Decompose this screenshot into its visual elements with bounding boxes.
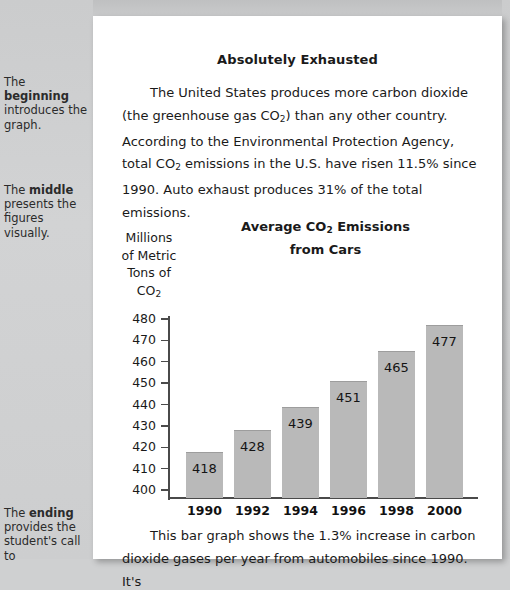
bar-value-2000: 477 (426, 334, 463, 349)
margin-note-middle: The middle presents the figures visually… (4, 183, 92, 240)
y-tick-410 (161, 468, 169, 469)
margin-note-beginning-pre: The (4, 75, 25, 89)
document-sheet: Absolutely Exhausted The United States p… (93, 16, 502, 559)
subscript-2: 2 (326, 225, 332, 235)
bar-value-1994: 439 (282, 416, 319, 431)
x-axis-label-2000: 2000 (421, 503, 469, 518)
margin-note-ending: The ending provides the student's call t… (4, 506, 92, 563)
y-tick-460 (161, 361, 169, 362)
subscript-2: 2 (280, 114, 286, 124)
margin-note-beginning: The beginning introduces the graph. (4, 75, 92, 132)
y-tick-440 (161, 404, 169, 405)
bar-value-1990: 418 (186, 461, 223, 476)
bar-2000 (426, 325, 463, 498)
chart-title: Average CO2 Emissionsfrom Cars (203, 217, 448, 259)
x-axis-label-1992: 1992 (229, 503, 277, 518)
margin-note-middle-pre: The (4, 183, 29, 197)
bar-value-1996: 451 (330, 390, 367, 405)
y-tick-450 (161, 382, 169, 383)
x-axis-label-1994: 1994 (277, 503, 325, 518)
margin-note-beginning-keyword: beginning (4, 89, 69, 103)
y-tick-430 (161, 425, 169, 426)
margin-note-ending-pre: The (4, 506, 29, 520)
y-tick-label-480: 480 (124, 313, 156, 325)
margin-note-middle-keyword: middle (29, 183, 73, 197)
y-tick-label-470: 470 (124, 334, 156, 346)
y-tick-label-400: 400 (124, 484, 156, 496)
bar-value-1998: 465 (378, 360, 415, 375)
x-axis-label-1998: 1998 (373, 503, 421, 518)
x-axis-label-1996: 1996 (325, 503, 373, 518)
y-tick-label-430: 430 (124, 420, 156, 432)
margin-note-ending-post: provides the student's call to (4, 520, 81, 562)
x-axis-label-1990: 1990 (181, 503, 229, 518)
closing-paragraph: This bar graph shows the 1.3% increase i… (122, 524, 482, 590)
y-tick-label-410: 410 (124, 463, 156, 475)
margin-annotations: The beginning introduces the graph. The … (0, 0, 93, 559)
sheet-top-shadow (93, 0, 502, 16)
chart-plot-area: 400410420430440450460470480 418428439451… (160, 309, 478, 500)
margin-note-ending-keyword: ending (29, 506, 74, 520)
y-tick-400 (161, 489, 169, 490)
y-tick-480 (161, 318, 169, 319)
subscript-2: 2 (155, 289, 161, 299)
margin-note-beginning-post: introduces the graph. (4, 103, 87, 131)
y-tick-label-420: 420 (124, 441, 156, 453)
y-tick-label-450: 450 (124, 377, 156, 389)
subscript-2: 2 (175, 162, 181, 172)
bar-value-1992: 428 (234, 439, 271, 454)
y-tick-420 (161, 447, 169, 448)
margin-note-middle-post: presents the figures visually. (4, 197, 76, 239)
y-tick-label-460: 460 (124, 356, 156, 368)
y-tick-470 (161, 340, 169, 341)
y-tick-label-440: 440 (124, 399, 156, 411)
intro-paragraph: The United States produces more carbon d… (122, 82, 478, 225)
bar-chart: Average CO2 Emissionsfrom Cars Millionso… (93, 206, 502, 516)
y-axis-title: Millionsof MetricTons ofCO2 (113, 229, 185, 303)
article-title: Absolutely Exhausted (93, 52, 502, 67)
y-axis-line (168, 316, 170, 500)
